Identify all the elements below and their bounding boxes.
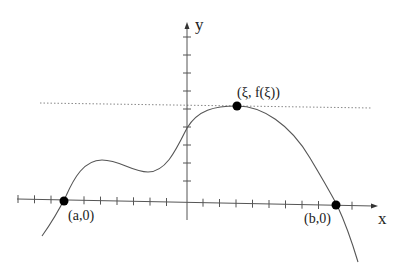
point-a xyxy=(60,197,69,206)
point-xi-label: (ξ, f(ξ)) xyxy=(237,85,280,101)
y-axis xyxy=(183,22,191,220)
point-a-label: (a,0) xyxy=(68,208,94,224)
point-b-label: (b,0) xyxy=(304,211,331,227)
x-axis-label: x xyxy=(378,209,387,228)
point-b xyxy=(332,201,341,210)
y-axis-label: y xyxy=(195,15,204,34)
x-axis-arrow-icon xyxy=(371,204,378,209)
diagram-canvas: y x (a,0) (ξ, f(ξ)) (b,0) xyxy=(0,0,404,266)
point-xi xyxy=(233,102,242,111)
y-axis-arrow-icon xyxy=(185,22,190,29)
max-dotted-line xyxy=(40,103,372,108)
function-curve xyxy=(42,106,358,262)
